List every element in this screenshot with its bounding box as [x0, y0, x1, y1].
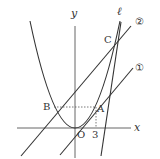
point-C-label: C: [104, 35, 112, 45]
x-axis-label: x: [134, 122, 140, 133]
graph-figure: y x O 3 A B C ℓ ② ①: [0, 0, 160, 159]
line-2-label: ②: [135, 17, 144, 27]
tick-label-3: 3: [92, 130, 98, 140]
point-B-label: B: [43, 102, 50, 112]
line-l-label: ℓ: [117, 6, 122, 17]
line-1-label: ①: [135, 63, 144, 73]
y-axis-label: y: [71, 8, 77, 19]
point-A-label: A: [97, 104, 104, 114]
origin-label: O: [77, 130, 85, 140]
